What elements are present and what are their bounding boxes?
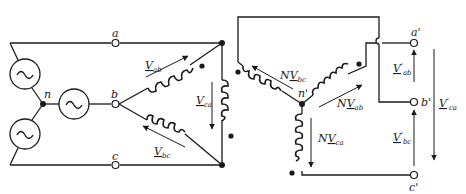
label-vca-prime: V'ca xyxy=(439,97,457,112)
label-a: a xyxy=(112,27,119,40)
sine-glyph-icon xyxy=(17,72,33,79)
polarity-dot-nbc xyxy=(235,69,240,74)
terminal-b xyxy=(112,101,119,108)
wire-source-a-top xyxy=(10,43,18,60)
label-b-prime: b' xyxy=(421,96,431,109)
terminal-a xyxy=(112,40,119,47)
label-nvbc: NVbc xyxy=(279,69,306,84)
polarity-dot-ab xyxy=(199,63,204,68)
label-c-prime: c' xyxy=(409,181,418,194)
arrow-vbc-icon xyxy=(143,126,185,147)
wire-bc-2 xyxy=(185,134,222,165)
terminal-c-prime xyxy=(411,172,418,179)
label-vab-prime: V'ab xyxy=(393,62,412,77)
label-b: b xyxy=(111,88,118,101)
label-c: c xyxy=(112,150,118,163)
winding-nab-coil-icon xyxy=(313,64,348,96)
wire-ab-2 xyxy=(190,43,222,65)
wire-nab-2 xyxy=(348,43,376,74)
label-n: n xyxy=(44,88,51,101)
polarity-dot-ca xyxy=(228,133,233,138)
label-vbc: Vbc xyxy=(154,145,170,160)
winding-nca-coil-icon xyxy=(296,114,303,161)
wire-bc-1 xyxy=(119,104,147,120)
terminal-b-prime xyxy=(411,99,418,106)
terminal-a-prime xyxy=(411,40,418,47)
y-source: n a b c xyxy=(10,27,222,169)
node-bottom-right xyxy=(219,162,225,168)
label-n-prime: n' xyxy=(298,87,308,100)
winding-ca-coil-icon xyxy=(222,80,229,121)
winding-bc-coil-icon xyxy=(147,115,185,132)
sine-glyph-icon xyxy=(66,102,82,109)
wire-nbc-1 xyxy=(238,62,243,66)
label-a-prime: a' xyxy=(411,26,421,39)
label-nvab: NVab xyxy=(336,97,364,112)
wire-c-prime xyxy=(302,171,410,175)
wire-source-c-bottom xyxy=(10,148,18,165)
delta-primary: Vab Vbc Vca xyxy=(119,40,234,168)
sine-glyph-icon xyxy=(17,132,33,139)
label-nvca: NVca xyxy=(317,132,344,147)
y-secondary: NVbc NVab NVca n' a' b' c' V'ab V'bc xyxy=(235,17,457,194)
label-vab: Vab xyxy=(145,59,162,74)
label-vca: Vca xyxy=(196,94,212,109)
wire-top-loop xyxy=(238,17,379,62)
wire-ab-1 xyxy=(119,88,148,104)
label-vbc-prime: V'bc xyxy=(393,131,411,146)
wire-crossover-hop xyxy=(376,38,379,44)
polarity-dot-nca xyxy=(289,170,294,175)
polarity-dot-nab xyxy=(356,61,361,66)
node-top-right xyxy=(219,40,225,46)
neutral-node-dot xyxy=(40,101,46,107)
three-phase-circuit-diagram: n a b c Vab Vbc Vca xyxy=(0,0,466,194)
neutral-node-prime-dot xyxy=(299,101,305,107)
